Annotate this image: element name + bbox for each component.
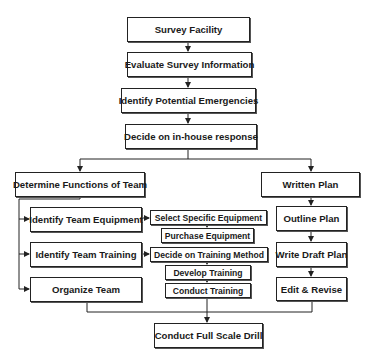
node-organize-team: Organize Team: [30, 277, 142, 302]
node-survey-facility: Survey Facility: [127, 17, 250, 42]
node-edit-revise: Edit & Revise: [276, 277, 347, 301]
node-determine-functions: Determine Functions of Team: [15, 172, 145, 197]
node-written-plan: Written Plan: [261, 172, 360, 197]
node-outline-plan: Outline Plan: [276, 206, 347, 231]
node-decide-training-method: Decide on Training Method: [150, 247, 268, 262]
node-write-draft-plan: Write Draft Plan: [276, 242, 347, 267]
node-identify-training: Identify Team Training: [30, 242, 142, 267]
node-identify-equipment: Identify Team Equipment: [30, 207, 142, 232]
node-evaluate-survey: Evaluate Survey Information: [127, 52, 252, 77]
node-develop-training: Develop Training: [165, 265, 251, 280]
node-purchase-equipment: Purchase Equipment: [161, 228, 254, 243]
node-decide-response: Decide on in-house response: [125, 124, 257, 149]
node-conduct-training: Conduct Training: [165, 283, 251, 298]
node-select-equipment: Select Specific Equipment: [150, 210, 267, 225]
node-identify-emergencies: Identify Potential Emergencies: [121, 88, 256, 113]
node-full-scale-drill: Conduct Full Scale Drill: [154, 323, 263, 348]
flowchart: Survey Facility Evaluate Survey Informat…: [0, 0, 371, 362]
